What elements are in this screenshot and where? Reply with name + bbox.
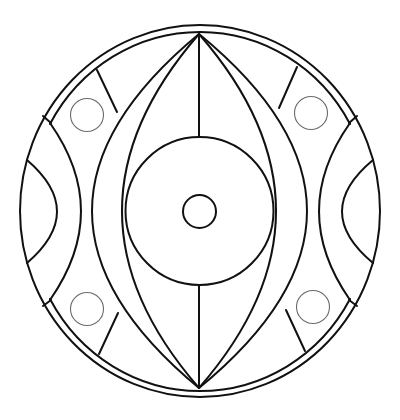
side-arc-left (50, 123, 81, 300)
side-arc-right (319, 123, 350, 300)
small-circle-top-left (71, 99, 104, 132)
center-circle (183, 195, 216, 228)
inner-lens-left (122, 34, 199, 388)
mandala-drawing (0, 0, 400, 420)
mandala-canvas: mandala coloring page (0, 0, 400, 420)
segment-top-right (279, 67, 297, 108)
segment-bottom-left (99, 313, 118, 354)
inner-lens-right (199, 34, 276, 388)
small-circle-bottom-right (297, 291, 330, 324)
half-moon-right (342, 160, 373, 263)
small-circle-bottom-left (71, 293, 104, 326)
half-moon-left (27, 160, 57, 263)
segment-bottom-right (286, 310, 305, 351)
small-circle-top-right (295, 97, 328, 130)
middle-circle (126, 137, 274, 285)
